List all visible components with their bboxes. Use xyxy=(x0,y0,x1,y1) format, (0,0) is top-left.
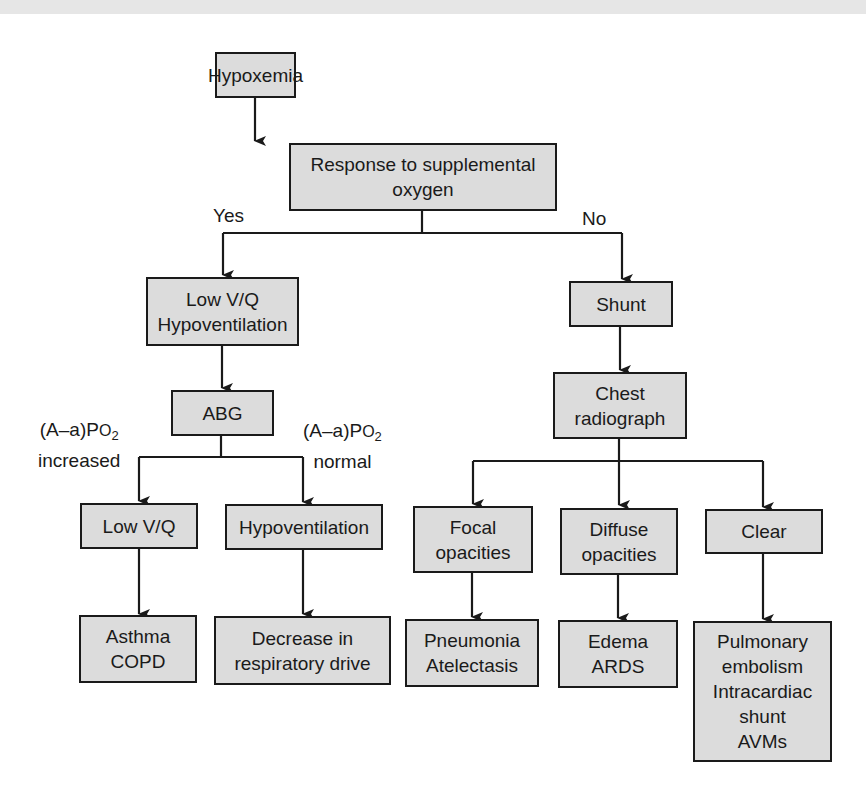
aa-normal-prefix: (A–a)P xyxy=(303,420,362,441)
node-low-vq: Low V/Q xyxy=(80,503,198,549)
edge-label-aa-normal: (A–a)PO2 normal xyxy=(303,418,382,474)
node-focal-opacities: Focal opacities xyxy=(413,506,533,573)
node-low-vq-hypoventilation: Low V/Q Hypoventilation xyxy=(146,277,299,346)
node-shunt: Shunt xyxy=(569,281,673,327)
node-diffuse-opacities: Diffuse opacities xyxy=(560,508,678,575)
node-pulmonary-embolism-intracardiac-shunt-avms: Pulmonary embolism Intracardiac shunt AV… xyxy=(693,621,832,762)
node-chest-radiograph: Chest radiograph xyxy=(553,372,687,439)
node-clear: Clear xyxy=(705,509,823,554)
aa-increased-sub: 2 xyxy=(111,428,118,443)
edge-label-aa-increased: (A–a)PO2 increased xyxy=(38,417,120,473)
node-asthma-copd: Asthma COPD xyxy=(79,615,197,683)
aa-normal-sub: 2 xyxy=(375,429,382,444)
node-hypoxemia: Hypoxemia xyxy=(215,52,296,98)
aa-normal-o: O xyxy=(362,423,374,440)
node-abg: ABG xyxy=(171,390,274,436)
node-pneumonia-atelectasis: Pneumonia Atelectasis xyxy=(405,619,539,687)
aa-increased-prefix: (A–a)P xyxy=(40,419,99,440)
aa-increased-text: increased xyxy=(38,448,120,473)
aa-increased-o: O xyxy=(99,422,111,439)
node-edema-ards: Edema ARDS xyxy=(558,620,678,688)
edge-label-no: No xyxy=(582,206,606,231)
aa-normal-text: normal xyxy=(303,449,382,474)
node-decrease-respiratory-drive: Decrease in respiratory drive xyxy=(214,616,391,685)
node-response-to-supplemental-oxygen: Response to supplemental oxygen xyxy=(289,143,557,211)
node-hypoventilation: Hypoventilation xyxy=(225,504,383,550)
edge-label-yes: Yes xyxy=(213,203,244,228)
